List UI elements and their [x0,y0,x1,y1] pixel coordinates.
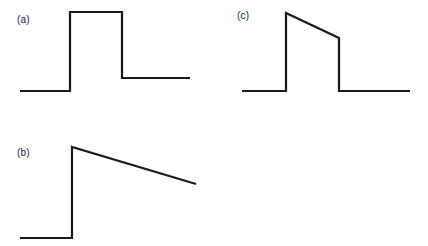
waveform-c-polyline [242,13,410,91]
panel-label-c: (c) [237,10,249,21]
waveform-b-polyline [20,147,196,238]
waveform-b-trace [0,123,214,246]
figure-root: (a) (b) (c) [0,0,428,246]
panel-label-a: (a) [17,14,30,25]
waveform-a-trace [0,0,214,123]
panel-a [0,0,214,123]
panel-b [0,123,214,246]
panel-label-b: (b) [17,147,30,158]
waveform-a-polyline [20,12,190,91]
